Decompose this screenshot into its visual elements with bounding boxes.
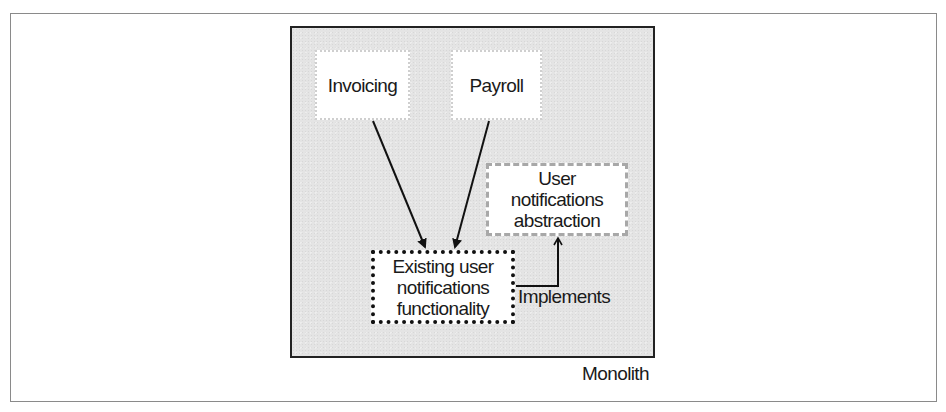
monolith-label: Monolith [582,363,649,385]
implements-connector [516,238,558,286]
implements-edge-label: Implements [518,286,610,308]
payroll-to-existing-arrow [455,121,489,247]
invoicing-to-existing-arrow [373,121,425,247]
connectors [0,0,946,412]
